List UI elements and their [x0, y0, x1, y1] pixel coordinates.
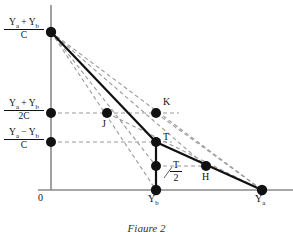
figure-caption: Figure 2: [0, 222, 293, 232]
t-half-denominator: 2: [169, 173, 183, 183]
y-axis-label-low-denominator: C: [2, 141, 46, 151]
point-h[interactable]: [201, 161, 211, 171]
point-label-k: K: [163, 96, 170, 107]
point-label-h: H: [202, 171, 209, 182]
point-apex[interactable]: [46, 27, 56, 37]
y-axis-label-top: Ya + Yb C: [2, 18, 46, 41]
t-half-annotation: T 2: [169, 160, 183, 183]
point-label-t: T: [163, 131, 169, 142]
point-t[interactable]: [151, 137, 161, 147]
point-y-mid-axis[interactable]: [46, 108, 56, 118]
y-axis-label-top-denominator: C: [2, 31, 46, 41]
point-k[interactable]: [151, 108, 161, 118]
y-axis-label-top-numerator: Ya + Yb: [2, 18, 46, 28]
dash-apex-to-h: [51, 32, 206, 166]
point-y-low-axis[interactable]: [46, 137, 56, 147]
data-points: [46, 27, 267, 195]
y-axis-label-mid-denominator: 2C: [2, 112, 46, 122]
y-axis-label-mid: Ya + Yb 2C: [2, 99, 46, 122]
y-axis-label-mid-numerator: Ya + Yb: [2, 99, 46, 109]
point-label-j: J: [102, 118, 106, 129]
t-half-numerator: T: [169, 160, 183, 170]
y-axis-label-low-numerator: Ya − Yb: [2, 128, 46, 138]
dash-apex-to-thalf: [51, 32, 156, 166]
x-axis-tick-ya: Ya: [255, 193, 265, 204]
point-j[interactable]: [102, 108, 112, 118]
y-axis-label-low: Ya − Yb C: [2, 128, 46, 151]
origin-label: 0: [38, 192, 43, 203]
x-axis-tick-yb: Yb: [148, 193, 159, 204]
point-t-half[interactable]: [151, 161, 161, 171]
figure-container: Ya + Yb C Ya + Yb 2C Ya − Yb C 0 Yb Ya J…: [0, 0, 293, 232]
